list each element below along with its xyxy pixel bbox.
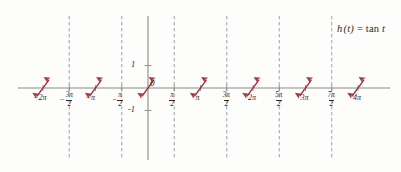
tangent-plot-canvas — [0, 0, 401, 172]
tangent-function-figure: −2π−3π2−π−π2π2π3π22π5π23π7π24π 1 -1 0 h … — [0, 0, 401, 172]
axes-group — [18, 16, 390, 160]
